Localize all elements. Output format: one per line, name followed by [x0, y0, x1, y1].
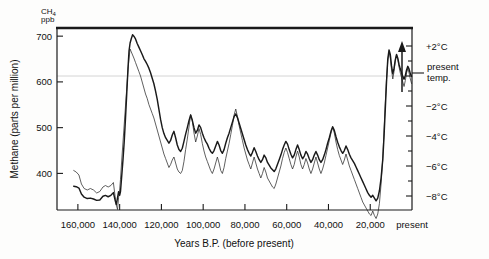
x-tick-label: 100,000: [186, 219, 220, 230]
x-tick-label: 140,000: [102, 219, 136, 230]
plot-background: [57, 27, 412, 210]
y-tick-label-right: −4°C: [426, 131, 448, 142]
y-tick-label-right: −6°C: [426, 161, 448, 172]
x-tick-label: 120,000: [144, 219, 178, 230]
y-tick-label-left: 500: [36, 122, 52, 133]
x-tick-label: 60,000: [272, 219, 301, 230]
chart-figure: 700600500400 +2°C−2°C−4°C−6°C−8°C 160,00…: [0, 0, 489, 259]
present-temp-label-line1: present: [427, 61, 459, 72]
y-tick-label-left: 700: [36, 31, 52, 42]
y-tick-label-right: −8°C: [426, 191, 448, 202]
x-tick-label: 20,000: [356, 219, 385, 230]
y-axis-unit-ppb: ppb: [41, 15, 55, 24]
y-tick-label-left: 400: [36, 168, 52, 179]
y-tick-label-right: +2°C: [426, 41, 448, 52]
x-tick-label: 80,000: [230, 219, 259, 230]
y-axis-title: Methane (parts per million): [9, 60, 20, 179]
present-temp-label-line2: temp.: [427, 72, 451, 83]
y-tick-label-right: −2°C: [426, 101, 448, 112]
x-tick-label: 160,000: [61, 219, 95, 230]
chart-svg: 700600500400 +2°C−2°C−4°C−6°C−8°C 160,00…: [0, 0, 489, 259]
x-axis-title: Years B.P. (before present): [174, 238, 294, 249]
x-tick-label: present: [396, 219, 428, 230]
x-tick-label: 40,000: [314, 219, 343, 230]
y-tick-label-left: 600: [36, 76, 52, 87]
